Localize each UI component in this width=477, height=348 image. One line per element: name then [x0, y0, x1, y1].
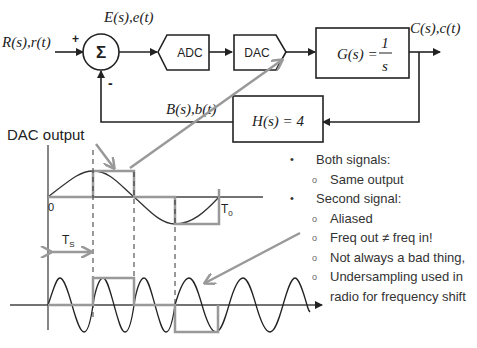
sample-period-label: TS — [62, 233, 75, 249]
dac-output-callout-arrow — [96, 144, 114, 168]
aliased-callout-arrow — [205, 233, 300, 283]
note-item: Not always a bad thing, — [290, 248, 466, 268]
note-item: Freq out ≠ freq in! — [290, 228, 466, 248]
note-item: Undersampling used in — [290, 267, 466, 287]
feedback-label: B(s),b(t) — [166, 101, 216, 118]
note-item: Second signal: — [290, 189, 466, 209]
plant-label: G(s) = — [337, 46, 378, 63]
error-label: E(s),e(t) — [103, 9, 154, 26]
dac-output-callout: DAC output — [7, 126, 85, 143]
origin-label: 0 — [48, 201, 54, 213]
input-label: R(s),r(t) — [1, 34, 51, 51]
feedback-block-label: H(s) = 4 — [251, 113, 304, 130]
plus-sign: + — [72, 32, 79, 46]
summer-symbol: Σ — [96, 43, 106, 62]
notes-list: Both signals: Same output Second signal:… — [290, 150, 466, 306]
plant-denominator: s — [382, 58, 388, 74]
period-label: T0 — [221, 202, 233, 218]
note-item: Aliased — [290, 209, 466, 229]
adc-label: ADC — [177, 46, 203, 60]
plant-numerator: 1 — [381, 35, 389, 51]
minus-sign: - — [108, 75, 113, 91]
note-item-continuation: radio for frequency shift — [290, 287, 466, 307]
dac-label: DAC — [244, 46, 270, 60]
output-label: C(s),c(t) — [410, 20, 460, 37]
slide: R(s),r(t) + - Σ E(s),e(t) ADC DAC G(s) =… — [0, 0, 477, 348]
bottom-plot — [10, 233, 322, 332]
note-item: Both signals: — [290, 150, 466, 170]
note-item: Same output — [290, 170, 466, 190]
